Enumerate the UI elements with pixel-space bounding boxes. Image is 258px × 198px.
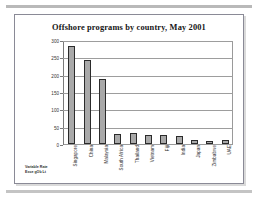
y-axis-tick [60, 93, 63, 94]
bar-slot [64, 41, 79, 144]
bar [68, 46, 75, 144]
y-axis-label: 50 [54, 125, 59, 130]
source-note: Variable Rate Exce gOb Lt [25, 165, 48, 175]
x-axis-label: Vietnam [150, 145, 155, 162]
bar [191, 140, 198, 144]
bar [99, 79, 106, 144]
bar-slot [125, 41, 140, 144]
x-axis-label: Thailand [135, 145, 140, 163]
chart-title: Offshore programs by country, May 2001 [15, 23, 243, 32]
bar [206, 141, 213, 144]
bar [130, 133, 137, 144]
y-axis-tick [60, 110, 63, 111]
bar-slot [187, 41, 202, 144]
bar-slot [79, 41, 94, 144]
x-axis-label: Zimbabwe [212, 145, 217, 167]
y-axis-label: 200 [51, 73, 59, 78]
bar-slot [202, 41, 217, 144]
slide-canvas: Offshore programs by country, May 2001 0… [14, 14, 244, 184]
bar [114, 134, 121, 144]
x-axis-label: South Africa [119, 145, 124, 170]
bar-slot [218, 41, 233, 144]
y-axis-label: 250 [51, 56, 59, 61]
bottom-grey-strip [6, 190, 252, 193]
y-axis-label: 100 [51, 108, 59, 113]
y-axis-label: 0 [56, 143, 59, 148]
bar [160, 135, 167, 144]
bar-series [64, 41, 233, 144]
x-axis-label: Japan [196, 145, 201, 158]
y-axis-tick [60, 41, 63, 42]
y-axis-tick [60, 145, 63, 146]
bar-slot [110, 41, 125, 144]
y-axis-label: 150 [51, 91, 59, 96]
x-axis-label: UAE [227, 145, 232, 155]
bar [84, 60, 91, 144]
chart-plot: 050100150200250300 SingaporeChinaMalaysi… [63, 41, 233, 145]
bar [222, 140, 229, 144]
y-axis-tick [60, 58, 63, 59]
y-axis-label: 300 [51, 39, 59, 44]
source-note-line-2: Exce gOb Lt [25, 170, 48, 175]
x-axis-label: Malaysia [104, 145, 109, 164]
bar-slot [172, 41, 187, 144]
bar-slot [156, 41, 171, 144]
y-axis-tick [60, 76, 63, 77]
x-axis-label: China [89, 145, 94, 157]
bar-slot [95, 41, 110, 144]
bar [176, 136, 183, 144]
x-axis-label: Fiji [165, 145, 170, 151]
x-axis-label: India [181, 145, 186, 155]
y-axis-tick [60, 128, 63, 129]
bar [145, 135, 152, 144]
bar-slot [141, 41, 156, 144]
top-grey-strip [6, 5, 252, 8]
x-axis-label: Singapore [73, 145, 78, 166]
